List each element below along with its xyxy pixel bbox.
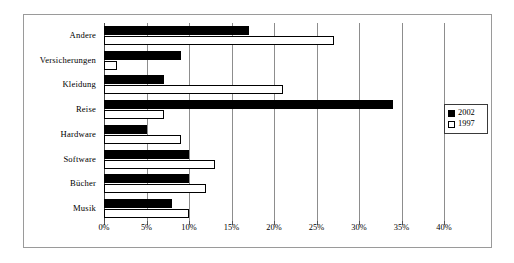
plot-area — [104, 23, 444, 221]
bar-2002-musik — [104, 199, 172, 208]
legend-label: 1997 — [458, 120, 475, 128]
bar-1997-hardware — [104, 135, 181, 144]
bar-1997-reise — [104, 110, 164, 119]
bar-2002-kleidung — [104, 75, 164, 84]
bar-1997-software — [104, 160, 215, 169]
x-tick-label: 15% — [224, 224, 239, 232]
category-label-reise: Reise — [20, 105, 96, 114]
category-axis-labels: AndereVersicherungenKleidungReiseHardwar… — [24, 23, 100, 221]
bar-group — [104, 147, 444, 172]
legend-item-2002: 2002 — [448, 108, 483, 119]
x-tick-label: 0% — [98, 224, 109, 232]
chart-legend: 2002 1997 — [444, 104, 488, 134]
category-label-bücher: Bücher — [20, 179, 96, 188]
x-tick-label: 40% — [436, 224, 451, 232]
bar-2002-hardware — [104, 125, 147, 134]
x-tick-label: 30% — [351, 224, 366, 232]
x-tick-label: 25% — [309, 224, 324, 232]
bar-2002-andere — [104, 26, 249, 35]
category-label-musik: Musik — [20, 204, 96, 213]
bar-1997-musik — [104, 209, 189, 218]
legend-swatch-filled-square-icon — [448, 110, 455, 117]
bar-group — [104, 73, 444, 98]
x-axis-tick-labels: 0%5%10%15%20%25%30%35%40% — [104, 224, 444, 240]
bar-1997-versicherungen — [104, 61, 117, 70]
x-tick-label: 20% — [266, 224, 281, 232]
x-tick-label: 35% — [394, 224, 409, 232]
bar-group — [104, 172, 444, 197]
chart-figure: AndereVersicherungenKleidungReiseHardwar… — [23, 14, 492, 248]
bar-2002-bücher — [104, 174, 189, 183]
category-label-hardware: Hardware — [20, 130, 96, 139]
bar-group — [104, 97, 444, 122]
legend-item-1997: 1997 — [448, 119, 483, 130]
bar-group — [104, 23, 444, 48]
bar-2002-reise — [104, 100, 393, 109]
bar-2002-software — [104, 150, 189, 159]
x-tick-label: 10% — [181, 224, 196, 232]
bar-2002-versicherungen — [104, 51, 181, 60]
category-label-software: Software — [20, 155, 96, 164]
bar-group — [104, 48, 444, 73]
bar-group — [104, 196, 444, 221]
bar-1997-bücher — [104, 184, 206, 193]
category-label-andere: Andere — [20, 31, 96, 40]
legend-swatch-hollow-square-icon — [448, 121, 455, 128]
legend-label: 2002 — [458, 109, 475, 117]
category-label-kleidung: Kleidung — [20, 80, 96, 89]
bar-1997-andere — [104, 36, 334, 45]
bar-group — [104, 122, 444, 147]
bar-1997-kleidung — [104, 85, 283, 94]
x-tick-label: 5% — [141, 224, 152, 232]
category-label-versicherungen: Versicherungen — [20, 56, 96, 65]
